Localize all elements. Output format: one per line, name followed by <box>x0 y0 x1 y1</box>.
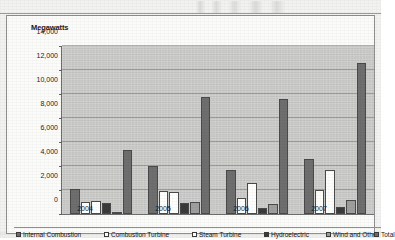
y-axis-tick-label: 10,000 <box>37 76 58 83</box>
legend-swatch <box>264 232 269 237</box>
legend-item: Total <box>374 231 395 238</box>
bar-group <box>296 46 374 214</box>
scan-artifact-bleedthrough <box>196 1 292 13</box>
legend-label: Combustion Turbine <box>111 231 169 238</box>
bar-group <box>62 46 140 214</box>
legend-swatch <box>16 232 21 237</box>
y-axis-tick-label: 12,000 <box>37 52 58 59</box>
y-axis-tick-mark <box>59 94 62 95</box>
y-axis-tick-label: 14,000 <box>37 28 58 35</box>
chart-legend: Internal CombustionCombustion TurbineSte… <box>14 227 381 240</box>
y-axis-tick-mark <box>59 214 62 215</box>
y-axis-tick-label: 0 <box>54 196 58 203</box>
y-axis-tick-mark <box>59 70 62 71</box>
scanned-page: Megawatts 14,00012,00010,0008,0006,0004,… <box>0 0 381 238</box>
legend-swatch <box>374 232 379 237</box>
x-axis-category-label: 2006 <box>202 205 280 212</box>
page-top-rule <box>0 13 381 14</box>
legend-swatch <box>192 232 197 237</box>
x-axis-category-label: 2004 <box>46 205 124 212</box>
legend-label: Hydroelectric <box>271 231 309 238</box>
legend-item: Internal Combustion <box>16 231 81 238</box>
legend-label: Total <box>381 231 395 238</box>
legend-swatch <box>326 232 331 237</box>
y-axis-tick-labels: 14,00012,00010,0008,0006,0004,0002,0000 <box>13 16 58 235</box>
y-axis-tick-mark <box>59 118 62 119</box>
y-axis-tick-mark <box>59 142 62 143</box>
y-axis-tick-mark <box>59 166 62 167</box>
bar-group <box>218 46 296 214</box>
x-axis-category-label: 2007 <box>280 205 358 212</box>
y-axis-tick-label: 2,000 <box>40 172 58 179</box>
legend-item: Combustion Turbine <box>104 231 169 238</box>
legend-label: Steam Turbine <box>199 231 241 238</box>
y-axis-tick-label: 8,000 <box>40 100 58 107</box>
legend-item: Hydroelectric <box>264 231 309 238</box>
bar-group <box>140 46 218 214</box>
x-axis-category-label: 2005 <box>124 205 202 212</box>
legend-swatch <box>104 232 109 237</box>
chart-frame: Megawatts 14,00012,00010,0008,0006,0004,… <box>6 15 375 234</box>
legend-label: Internal Combustion <box>23 231 81 238</box>
legend-label: Wind and Other <box>333 231 379 238</box>
y-axis-tick-label: 6,000 <box>40 124 58 131</box>
bar <box>357 63 367 214</box>
bar <box>112 212 122 214</box>
y-axis-tick-label: 4,000 <box>40 148 58 155</box>
bar <box>279 99 289 214</box>
y-axis-tick-mark <box>59 190 62 191</box>
y-axis-tick-mark <box>59 46 62 47</box>
bar <box>201 97 211 214</box>
legend-item: Wind and Other <box>326 231 379 238</box>
plot-area <box>61 46 374 215</box>
legend-item: Steam Turbine <box>192 231 241 238</box>
